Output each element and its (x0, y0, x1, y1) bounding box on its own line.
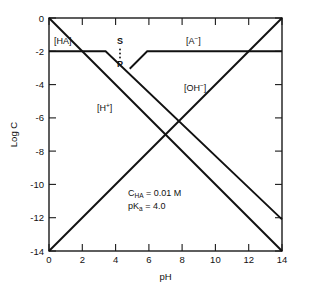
y-tick-label: -12 (30, 212, 44, 223)
x-tick-label: 2 (80, 254, 85, 265)
x-tick-label: 0 (46, 254, 51, 265)
system-point-dot (119, 53, 121, 55)
x-tick-label: 14 (277, 254, 288, 265)
y-tick-label: -2 (36, 46, 44, 57)
x-tick-label: 10 (210, 254, 221, 265)
parameter-annotation-block: CHA = 0.01 M pKa = 4.0 (128, 188, 181, 212)
y-tick-labels: 0 -2 -4 -6 -8 -10 -12 -14 (30, 13, 44, 257)
oh-minus-label: [OH−] (184, 82, 206, 93)
series-line-a-minus (130, 51, 282, 68)
log-concentration-diagram: 0 -2 -4 -6 -8 -10 -12 -14 0 2 4 6 8 10 1… (0, 0, 309, 295)
system-point-s-label: S (117, 36, 123, 46)
y-tick-label: -8 (36, 146, 44, 157)
x-tick-label: 8 (179, 254, 184, 265)
pka-annotation: pKa = 4.0 (128, 201, 165, 212)
y-tick-label: -4 (36, 79, 44, 90)
chart-page: 0 -2 -4 -6 -8 -10 -12 -14 0 2 4 6 8 10 1… (0, 0, 309, 295)
a-minus-label: [A−] (186, 35, 201, 46)
x-tick-label: 12 (243, 254, 254, 265)
y-tick-label: -14 (30, 246, 44, 257)
system-point-annotation: S P (117, 36, 123, 69)
x-tick-labels: 0 2 4 6 8 10 12 14 (46, 254, 287, 265)
y-tick-label: -10 (30, 179, 44, 190)
x-tick-label: 6 (146, 254, 151, 265)
system-point-dot (119, 49, 121, 51)
system-point-p-label: P (117, 59, 123, 69)
x-tick-label: 4 (113, 254, 118, 265)
c-ha-annotation: CHA = 0.01 M (128, 188, 181, 199)
y-axis-title: Log C (8, 122, 19, 147)
y-tick-label: -6 (36, 112, 44, 123)
h-plus-label: [H+] (97, 102, 112, 113)
ha-label: [HA] (54, 36, 72, 46)
x-axis-title: pH (159, 271, 171, 282)
y-tick-label: 0 (39, 13, 44, 24)
